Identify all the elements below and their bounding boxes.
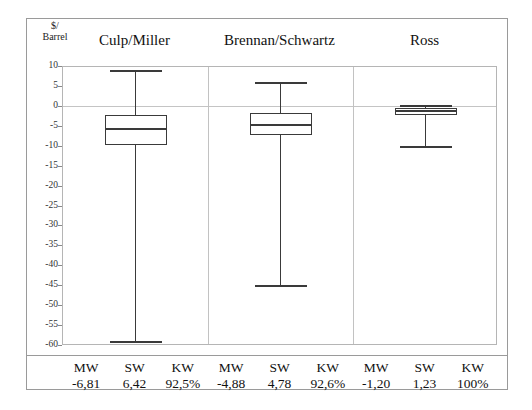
boxplot-figure: $/ Barrel Culp/Miller Brennan/Schwartz R… — [0, 0, 532, 410]
y-tick-label--30: -30 — [30, 220, 58, 230]
y-tick-mark--45 — [58, 285, 62, 286]
y-tick-label-5: 5 — [30, 81, 58, 91]
y-tick-label--35: -35 — [30, 240, 58, 250]
median-line-3 — [395, 110, 457, 112]
y-axis-unit-line1: $/ — [32, 20, 78, 31]
y-tick-label--55: -55 — [30, 320, 58, 330]
y-tick-label--10: -10 — [30, 141, 58, 151]
boxplot-3 — [63, 67, 496, 344]
whisker-cap-upper-3 — [400, 105, 452, 107]
y-tick-label--15: -15 — [30, 161, 58, 171]
y-tick-mark--20 — [58, 186, 62, 187]
y-tick-mark--10 — [58, 146, 62, 147]
stats-separator-line — [26, 355, 508, 356]
y-tick-mark--25 — [58, 206, 62, 207]
plot-area — [62, 66, 497, 345]
y-tick-mark--55 — [58, 325, 62, 326]
group-title-ross: Ross — [315, 32, 532, 49]
y-tick-label-0: 0 — [30, 101, 58, 111]
y-tick-label--45: -45 — [30, 280, 58, 290]
y-tick-label--20: -20 — [30, 181, 58, 191]
y-tick-mark--15 — [58, 166, 62, 167]
y-tick-mark--30 — [58, 225, 62, 226]
y-tick-mark--5 — [58, 126, 62, 127]
y-axis-tick-labels: 1050-5-10-15-20-25-30-35-40-45-50-55-60 — [28, 66, 58, 345]
y-tick-label--25: -25 — [30, 201, 58, 211]
y-tick-label--50: -50 — [30, 300, 58, 310]
y-tick-mark-5 — [58, 86, 62, 87]
whisker-cap-lower-3 — [400, 146, 452, 148]
y-tick-label--40: -40 — [30, 260, 58, 270]
y-tick-mark--50 — [58, 305, 62, 306]
y-tick-mark-10 — [58, 66, 62, 67]
whisker-lower-3 — [425, 115, 427, 147]
y-tick-mark-0 — [58, 106, 62, 107]
y-tick-mark--60 — [58, 345, 62, 346]
stat-value: 100% — [433, 376, 513, 392]
y-tick-label-10: 10 — [30, 61, 58, 71]
y-tick-label--5: -5 — [30, 121, 58, 131]
y-tick-label--60: -60 — [30, 340, 58, 350]
stat-label: KW — [433, 360, 513, 376]
y-tick-mark--35 — [58, 245, 62, 246]
stat-cell-kw-3: KW100% — [433, 360, 513, 392]
y-tick-mark--40 — [58, 265, 62, 266]
